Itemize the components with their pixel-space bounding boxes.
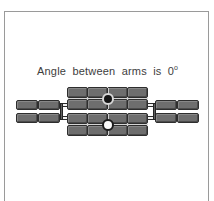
left-arm-block (38, 113, 60, 123)
upper-module-block (67, 99, 88, 110)
lower-module-block (127, 113, 148, 124)
lower-pivot-joint (102, 119, 114, 131)
figure-frame: Angle between arms is 0o (4, 11, 209, 201)
upper-module-block (127, 99, 148, 110)
right-arm-block (155, 113, 177, 123)
lower-module-block (127, 125, 148, 136)
left-arm-block (16, 113, 38, 123)
right-arm-block (177, 113, 199, 123)
left-arm-block (16, 100, 38, 110)
upper-module-block (67, 87, 88, 98)
left-arm-block (38, 100, 60, 110)
right-connector-post (153, 103, 156, 120)
mechanism-diagram (5, 12, 210, 201)
upper-module-block (127, 87, 148, 98)
right-arm-block (155, 100, 177, 110)
upper-pivot-joint (102, 93, 114, 105)
lower-module-block (67, 113, 88, 124)
right-arm-block (177, 100, 199, 110)
lower-module-block (67, 125, 88, 136)
left-connector-post (60, 103, 63, 120)
